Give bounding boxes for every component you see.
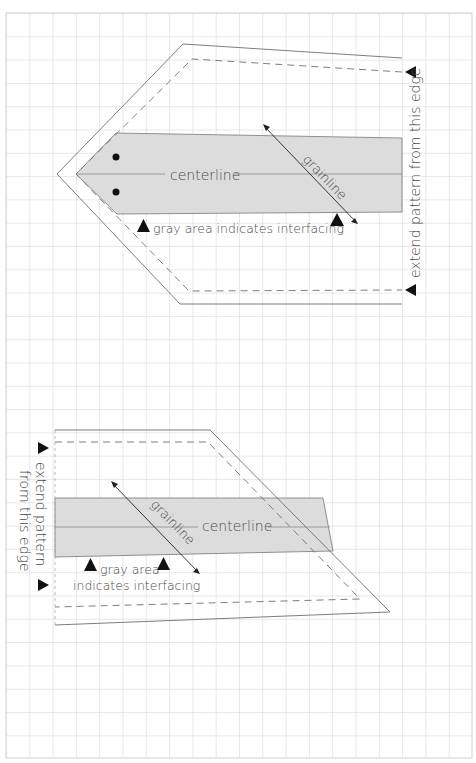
centerline-label: centerline bbox=[170, 167, 240, 183]
grid-background bbox=[6, 13, 472, 758]
interfacing-note-line2: indicates interfacing bbox=[73, 578, 200, 593]
interfacing-area bbox=[55, 498, 333, 557]
interfacing-note: gray area indicates interfacing bbox=[153, 221, 344, 236]
interfacing-note-line1: gray area bbox=[100, 562, 160, 577]
pattern-diagram: centerline grainline gray area indicates… bbox=[0, 0, 476, 763]
centerline-label: centerline bbox=[202, 518, 272, 534]
dot-marker bbox=[113, 189, 120, 196]
dot-marker bbox=[113, 154, 120, 161]
edge-note-line2: from this edge bbox=[17, 470, 33, 572]
edge-note-line1: extend pattern bbox=[33, 462, 49, 566]
edge-note: extend pattern from this edge bbox=[407, 68, 423, 278]
